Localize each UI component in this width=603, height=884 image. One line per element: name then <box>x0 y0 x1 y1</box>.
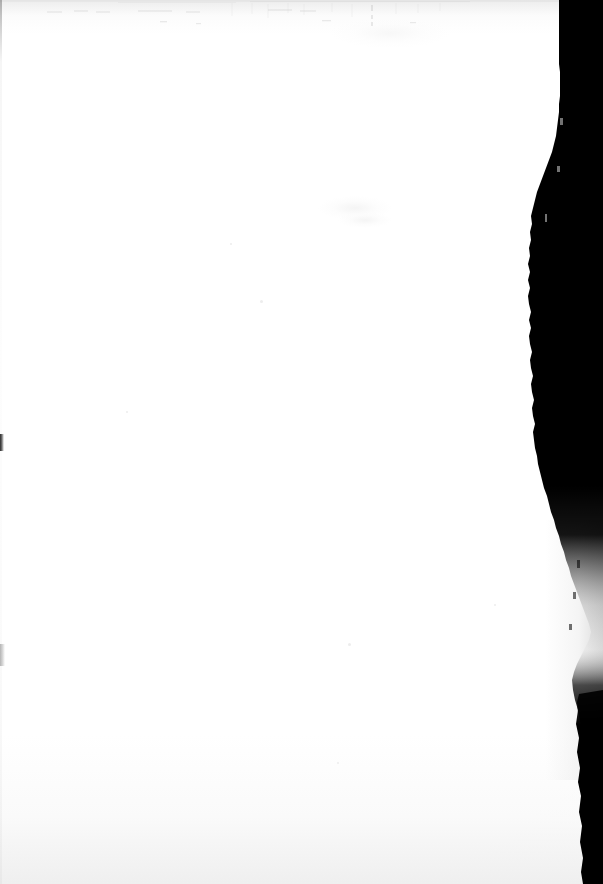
left-edge-light-notch <box>0 644 5 666</box>
paper-bottom-shading <box>0 734 603 884</box>
dust-speck <box>337 762 339 764</box>
left-edge-dark-notch <box>0 434 4 451</box>
dust-speck <box>260 300 263 303</box>
dust-speck <box>348 643 351 646</box>
top-edge-scan-noise <box>0 0 603 30</box>
dust-speck <box>126 411 128 413</box>
right-edge-scanner-shadow <box>523 0 603 884</box>
dust-speck <box>230 243 232 245</box>
bleed-through-smudge <box>338 212 392 228</box>
scanned-page <box>0 0 603 884</box>
dust-speck <box>494 604 496 606</box>
